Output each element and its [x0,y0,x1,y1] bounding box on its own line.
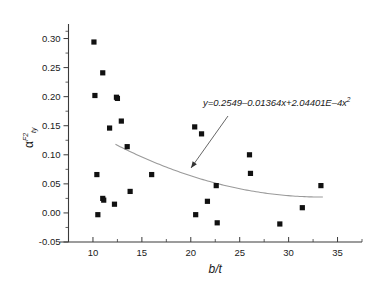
data-point-marker [149,172,154,177]
x-axis-title: b/t [0,262,386,276]
data-point-marker [193,212,198,217]
data-point-marker [119,118,124,123]
y-tick-label: 0.20 [42,91,61,102]
y-tick-label: -0.05 [39,236,61,247]
data-point-marker [192,124,197,129]
data-point-marker [107,125,112,130]
y-tick-label: 0.15 [42,120,61,131]
fit-equation-text: y=0.2549–0.01364x+2.04401E–4x [203,97,347,108]
fit-equation-label: y=0.2549–0.01364x+2.04401E–4x2 [203,96,350,108]
data-point-marker [92,93,97,98]
x-tick-label: 25 [234,247,245,258]
y-axis-symbol: α [22,141,36,148]
axis-tick-labels: -0.050.000.050.100.150.200.250.301015202… [39,33,343,258]
plot-canvas: -0.050.000.050.100.150.200.250.301015202… [0,0,386,291]
axis-ticks [64,31,363,242]
data-point-marker [277,221,282,226]
y-tick-label: 0.00 [42,207,61,218]
data-point-marker [205,199,210,204]
data-point-marker [214,183,219,188]
y-tick-label: 0.05 [42,178,61,189]
y-axis-title: αF2ty [22,127,37,148]
data-point-marker [101,198,106,203]
data-point-marker [95,212,100,217]
data-point-marker [318,183,323,188]
data-point-marker [115,96,120,101]
data-point-marker [215,220,220,225]
data-point-marker [112,202,117,207]
y-tick-label: 0.10 [42,149,61,160]
data-point-marker [128,189,133,194]
x-tick-label: 35 [332,247,343,258]
data-point-marker [248,171,253,176]
x-tick-label: 15 [137,247,148,258]
y-tick-label: 0.30 [42,33,61,44]
fit-equation-exponent: 2 [347,96,351,103]
data-point-marker [199,131,204,136]
y-tick-label: 0.25 [42,62,61,73]
data-point-marker [125,144,130,149]
data-point-marker [94,172,99,177]
data-point-marker [91,39,96,44]
y-axis-subscript: ty [30,127,37,132]
chart-figure: -0.050.000.050.100.150.200.250.301015202… [0,0,386,291]
data-point-marker [247,152,252,157]
annotation-leader-line [191,116,228,168]
axes [60,24,363,242]
data-point-marker [100,70,105,75]
x-tick-label: 20 [186,247,197,258]
data-point-marker [300,205,305,210]
fit-curve [115,144,322,197]
y-axis-superscript: F2 [22,133,29,141]
x-tick-label: 10 [88,247,99,258]
x-tick-label: 30 [283,247,294,258]
data-points [91,39,323,226]
